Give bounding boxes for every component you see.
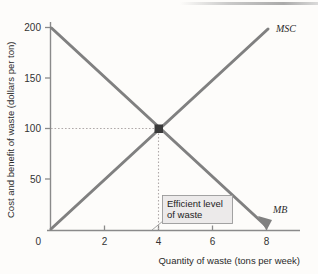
chart-canvas: 200 150 100 50 0 2 4 6 8 MSC MB Efficie bbox=[0, 0, 318, 274]
chart-figure: 200 150 100 50 0 2 4 6 8 MSC MB Efficie bbox=[0, 0, 318, 274]
y-tick-label-150: 150 bbox=[24, 73, 41, 84]
x-ticks-group bbox=[105, 226, 267, 231]
x-tick-label-6: 6 bbox=[210, 236, 216, 247]
annotation-line-1: Efficient level bbox=[167, 198, 223, 209]
y-tick-label-100: 100 bbox=[24, 123, 41, 134]
y-tick-label-0: 0 bbox=[35, 236, 41, 247]
msc-label: MSC bbox=[275, 23, 296, 34]
y-tick-label-50: 50 bbox=[30, 174, 42, 185]
x-tick-label-4: 4 bbox=[156, 236, 162, 247]
y-tick-label-200: 200 bbox=[24, 22, 41, 33]
x-axis-title: Quantity of waste (tons per week) bbox=[158, 255, 300, 266]
y-axis-title: Cost and benefit of waste (dollars per t… bbox=[5, 42, 16, 218]
y-ticks-group bbox=[45, 28, 51, 180]
annotation-leader-line bbox=[152, 221, 163, 230]
equilibrium-marker bbox=[155, 125, 164, 134]
mb-line-arrowhead bbox=[258, 216, 272, 231]
x-tick-label-8: 8 bbox=[264, 236, 270, 247]
efficient-level-annotation: Efficient level of waste bbox=[163, 196, 233, 224]
mb-label: MB bbox=[272, 204, 287, 215]
x-tick-label-2: 2 bbox=[102, 236, 108, 247]
annotation-line-2: of waste bbox=[167, 209, 202, 220]
